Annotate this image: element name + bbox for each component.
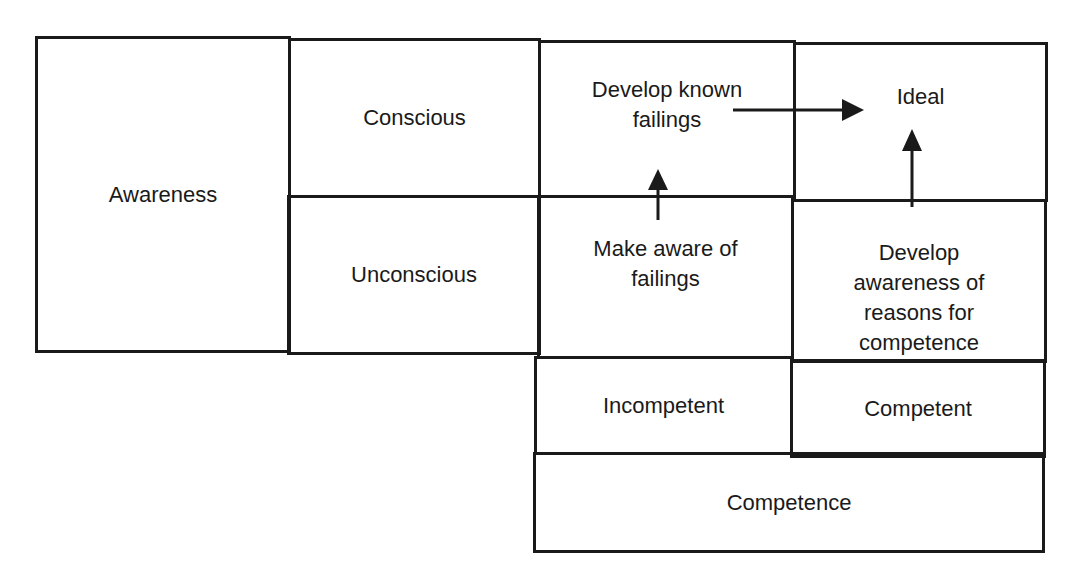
row-label-unconscious-cell: Unconscious [287,195,541,355]
competence-label: Competence [727,488,852,518]
col-label-incompetent-cell: Incompetent [534,356,793,455]
cell-conscious-incompetent: Develop known failings [538,40,796,198]
incompetent-label: Incompetent [603,391,724,421]
develop-known-failings-text: Develop known failings [582,75,752,135]
ideal-text: Ideal [897,82,945,112]
awareness-axis-label-cell: Awareness [35,36,291,353]
col-label-competent-cell: Competent [790,359,1046,458]
make-aware-of-failings-text: Make aware of failings [576,234,756,294]
competent-label: Competent [864,394,972,424]
unconscious-label: Unconscious [351,260,477,290]
awareness-label: Awareness [109,180,217,210]
competence-axis-label-cell: Competence [533,452,1045,553]
cell-conscious-competent: Ideal [793,42,1048,202]
cell-unconscious-competent: Develop awareness of reasons for compete… [791,199,1047,363]
cell-unconscious-incompetent: Make aware of failings [537,195,794,359]
conscious-label: Conscious [363,103,466,133]
row-label-conscious-cell: Conscious [288,38,541,198]
develop-awareness-text: Develop awareness of reasons for compete… [839,238,999,358]
